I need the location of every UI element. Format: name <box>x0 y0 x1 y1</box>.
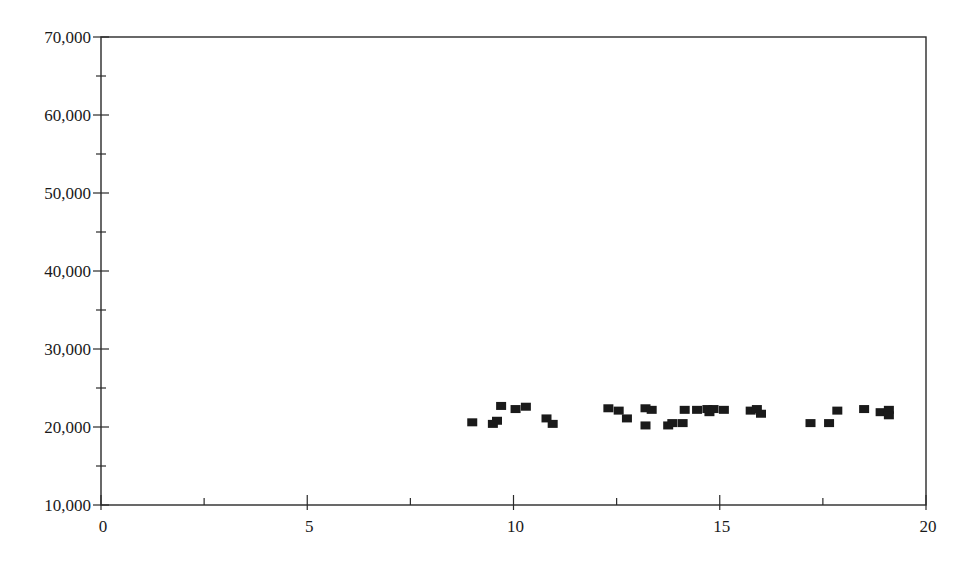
square-marker <box>511 405 521 413</box>
square-marker <box>680 406 690 414</box>
square-marker <box>647 406 657 414</box>
x-tick-label: 15 <box>713 517 730 536</box>
x-tick-label: 5 <box>305 517 314 536</box>
square-marker <box>622 414 632 422</box>
square-marker <box>859 405 869 413</box>
x-tick-label: 10 <box>507 517 524 536</box>
y-tick-label: 60,000 <box>44 106 91 125</box>
square-marker <box>824 419 834 427</box>
plot-frame <box>101 37 926 505</box>
square-marker <box>614 407 624 415</box>
plot-border <box>101 37 926 505</box>
square-marker <box>884 411 894 419</box>
square-marker <box>492 417 502 425</box>
y-tick-label: 20,000 <box>44 418 91 437</box>
x-axis: 05101520 <box>99 495 937 536</box>
square-marker <box>756 410 766 418</box>
square-marker <box>667 419 677 427</box>
square-marker <box>709 405 719 413</box>
square-marker <box>467 418 477 426</box>
square-marker <box>521 403 531 411</box>
square-marker <box>548 420 558 428</box>
square-marker <box>832 407 842 415</box>
data-points <box>467 402 894 430</box>
square-marker <box>603 404 613 412</box>
y-tick-label: 30,000 <box>44 340 91 359</box>
scatter-chart: 10,00020,00030,00040,00050,00060,00070,0… <box>0 0 964 570</box>
y-tick-label: 50,000 <box>44 184 91 203</box>
x-tick-label: 0 <box>99 517 108 536</box>
y-tick-label: 10,000 <box>44 496 91 515</box>
square-marker <box>719 406 729 414</box>
y-tick-label: 40,000 <box>44 262 91 281</box>
square-marker <box>678 419 688 427</box>
x-tick-label: 20 <box>920 517 937 536</box>
y-tick-label: 70,000 <box>44 28 91 47</box>
square-marker <box>692 406 702 414</box>
y-axis: 10,00020,00030,00040,00050,00060,00070,0… <box>44 28 109 515</box>
square-marker <box>496 402 506 410</box>
square-marker <box>806 419 816 427</box>
square-marker <box>641 421 651 429</box>
